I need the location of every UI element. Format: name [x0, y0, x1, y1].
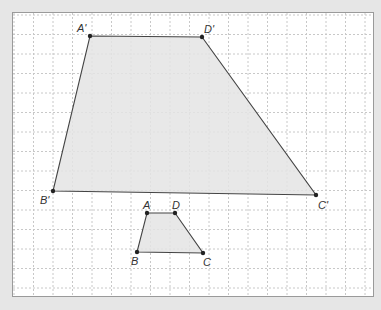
vertex-point — [135, 250, 139, 254]
vertex-label: D — [172, 199, 180, 211]
vertex-label: A' — [76, 22, 87, 34]
vertex-point — [314, 193, 318, 197]
vertex-point — [173, 211, 177, 215]
vertex-point — [201, 251, 205, 255]
vertex-label: A — [142, 199, 150, 211]
vertex-point — [88, 34, 92, 38]
vertex-point — [200, 35, 204, 39]
vertex-label: D' — [204, 23, 215, 35]
vertex-label: B' — [40, 194, 50, 206]
vertex-label: C — [203, 256, 211, 268]
vertex-point — [51, 189, 55, 193]
dilation-diagram: A'D'C'B'ADCB — [0, 0, 381, 310]
vertex-point — [145, 211, 149, 215]
vertex-label: B — [131, 255, 138, 267]
vertex-label: C' — [318, 199, 329, 211]
